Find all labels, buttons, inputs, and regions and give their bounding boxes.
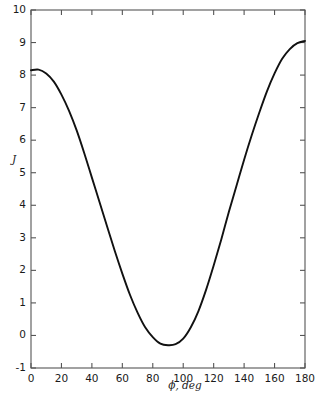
- x-tick-label: 0: [28, 372, 35, 384]
- x-tick-label: 80: [146, 372, 159, 384]
- line-chart: 020406080100120140160180 -1012345678910 …: [0, 0, 322, 401]
- x-tick-label: 140: [234, 372, 254, 384]
- y-tick-label: 6: [19, 133, 26, 145]
- x-tick-label: 60: [116, 372, 129, 384]
- y-tick-label: 7: [19, 101, 26, 113]
- chart-figure: 020406080100120140160180 -1012345678910 …: [0, 0, 322, 401]
- y-tick-label: 5: [19, 166, 26, 178]
- y-tick-label: 3: [19, 231, 26, 243]
- chart-background: [0, 0, 322, 401]
- y-tick-label: 2: [19, 263, 26, 275]
- y-tick-label: 4: [19, 198, 26, 210]
- y-tick-label: 0: [19, 328, 26, 340]
- x-tick-label: 120: [204, 372, 224, 384]
- y-axis-label: J: [10, 153, 17, 165]
- y-tick-label: 8: [19, 68, 26, 80]
- x-tick-label: 20: [55, 372, 68, 384]
- y-tick-label: -1: [16, 361, 26, 373]
- y-tick-label: 1: [19, 296, 26, 308]
- x-tick-label: 160: [265, 372, 285, 384]
- y-tick-label: 10: [13, 3, 26, 15]
- x-tick-label: 180: [295, 372, 315, 384]
- y-tick-label: 9: [19, 36, 26, 48]
- x-axis-label: ϕ, deg: [168, 379, 202, 391]
- x-tick-label: 40: [85, 372, 98, 384]
